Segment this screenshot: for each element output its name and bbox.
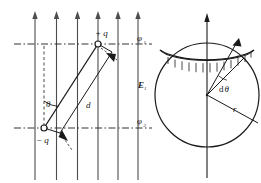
field-line-1 (32, 11, 37, 180)
right-panel-group: d θ r (155, 13, 259, 178)
perp-tick-arrowhead (59, 130, 69, 141)
separation-distance-label: d (86, 100, 91, 110)
field-line-2 (54, 11, 59, 180)
equipotential-top-label: φ 1 (137, 33, 146, 45)
equipotential-top-subscript: 1 (144, 40, 147, 45)
equipotential-top-symbol: φ (137, 33, 142, 43)
field-strength-subscript: 1 (144, 86, 147, 91)
theta-angle-label: θ (46, 99, 51, 109)
radius-label: r (233, 104, 237, 114)
equipotential-bottom-label: φ 2 (137, 116, 147, 128)
left-panel-group: + q − q θ d E 1 φ 1 φ 2 (14, 11, 152, 180)
sphere-centre-point (206, 94, 208, 96)
negative-charge-label: − q (36, 135, 49, 145)
field-strength-symbol: E (137, 80, 144, 90)
zone-band-hatching (168, 52, 251, 73)
field-strength-label: E 1 (137, 80, 147, 91)
perp-tick-arrowhead-top (106, 53, 116, 62)
figure-container: + q − q θ d E 1 φ 1 φ 2 (0, 0, 261, 183)
dipole-parallel-line (60, 52, 112, 133)
d-theta-symbol: θ (225, 84, 230, 94)
negative-charge-marker (41, 125, 47, 131)
uniform-field-lines (32, 11, 140, 180)
positive-charge-label: + q (95, 28, 108, 38)
d-theta-prefix: d (219, 84, 224, 94)
equipotential-bottom-symbol: φ (137, 116, 142, 126)
d-theta-label: d θ (219, 84, 230, 94)
field-line-5 (115, 11, 120, 180)
physics-figure: + q − q θ d E 1 φ 1 φ 2 (0, 0, 261, 183)
positive-charge-marker (95, 41, 101, 47)
equipotential-bottom-subscript: 2 (144, 123, 147, 128)
field-line-3 (75, 11, 80, 180)
